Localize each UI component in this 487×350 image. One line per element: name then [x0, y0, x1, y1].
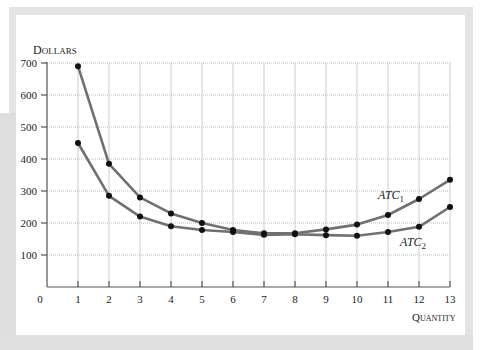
data-point: [354, 222, 360, 228]
x-tick-label: 4: [168, 293, 174, 305]
y-tick-label: 200: [21, 217, 38, 229]
y-tick-label: 500: [21, 121, 38, 133]
y-axis-title: DOLLARS: [33, 43, 77, 57]
curve-label-atc2: ATC2: [399, 235, 426, 251]
x-tick-label: 11: [383, 293, 394, 305]
origin-label: 0: [37, 293, 43, 305]
x-tick-label: 8: [292, 293, 298, 305]
data-point: [75, 63, 81, 69]
line-chart: 10020030040050060070012345678910111213 D…: [0, 0, 487, 350]
data-point: [168, 223, 174, 229]
y-tick-label: 700: [21, 57, 38, 69]
y-tick-label: 600: [21, 89, 38, 101]
x-tick-label: 1: [75, 293, 81, 305]
data-point: [199, 227, 205, 233]
x-tick-label: 9: [323, 293, 329, 305]
data-point: [106, 193, 112, 199]
y-tick-label: 300: [21, 185, 38, 197]
x-axis-title: QUANTITY: [412, 311, 456, 323]
x-tick-label: 2: [106, 293, 112, 305]
data-point: [168, 210, 174, 216]
y-tick-label: 100: [21, 249, 38, 261]
x-tick-label: 3: [137, 293, 143, 305]
data-point: [261, 232, 267, 238]
curve-label-atc1: ATC1: [377, 188, 404, 204]
data-point: [416, 224, 422, 230]
data-point: [106, 161, 112, 167]
data-point: [447, 204, 453, 210]
data-point: [292, 231, 298, 237]
x-tick-label: 5: [199, 293, 205, 305]
data-point: [137, 194, 143, 200]
data-point: [230, 229, 236, 235]
data-point: [385, 229, 391, 235]
data-point: [323, 226, 329, 232]
grid-lines: [47, 63, 450, 287]
data-point: [75, 140, 81, 146]
data-point: [416, 196, 422, 202]
data-point: [137, 214, 143, 220]
data-point: [354, 233, 360, 239]
data-point: [199, 220, 205, 226]
data-point: [323, 232, 329, 238]
data-point: [447, 177, 453, 183]
y-tick-label: 400: [21, 153, 38, 165]
x-tick-label: 6: [230, 293, 236, 305]
x-tick-label: 7: [261, 293, 267, 305]
x-tick-label: 10: [352, 293, 364, 305]
data-point: [385, 212, 391, 218]
x-tick-label: 13: [445, 293, 457, 305]
x-tick-label: 12: [414, 293, 425, 305]
